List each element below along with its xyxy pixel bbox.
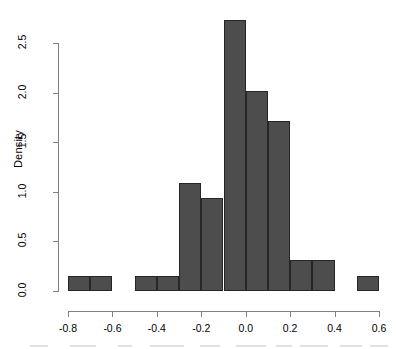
x-tick-label: -0.6 bbox=[89, 322, 135, 334]
histogram-bar bbox=[157, 276, 179, 291]
x-axis-line bbox=[68, 311, 379, 312]
histogram-bar bbox=[268, 121, 290, 291]
histogram-bar bbox=[246, 91, 268, 291]
fringe-mark bbox=[200, 345, 220, 347]
x-tick-label: -0.2 bbox=[178, 322, 224, 334]
histogram-bar bbox=[312, 260, 334, 291]
x-tick-mark bbox=[112, 311, 113, 317]
histogram-bar bbox=[224, 20, 246, 291]
x-tick-label: 0.0 bbox=[223, 322, 269, 334]
histogram-bar bbox=[201, 198, 223, 291]
x-tick-label: -0.8 bbox=[45, 322, 91, 334]
x-tick-label: -0.4 bbox=[134, 322, 180, 334]
x-tick-mark bbox=[201, 311, 202, 317]
fringe-mark bbox=[276, 345, 292, 347]
fringe-mark bbox=[70, 345, 96, 347]
fringe-mark bbox=[340, 345, 362, 347]
histogram-bar bbox=[357, 276, 379, 291]
x-tick-label: 0.6 bbox=[356, 322, 396, 334]
fringe-mark bbox=[30, 345, 48, 347]
histogram-bars bbox=[0, 0, 396, 349]
x-tick-mark bbox=[157, 311, 158, 317]
histogram-bar bbox=[68, 276, 90, 291]
fringe-mark bbox=[118, 345, 132, 347]
histogram-plot: Density 0.00.51.01.52.02.5 -0.8-0.6-0.4-… bbox=[0, 0, 396, 349]
x-tick-mark bbox=[335, 311, 336, 317]
fringe-mark bbox=[370, 345, 388, 347]
histogram-bar bbox=[290, 260, 312, 291]
fringe-mark bbox=[150, 345, 184, 347]
histogram-bar bbox=[90, 276, 112, 291]
x-tick-mark bbox=[246, 311, 247, 317]
x-tick-mark bbox=[290, 311, 291, 317]
x-tick-label: 0.2 bbox=[267, 322, 313, 334]
x-tick-mark bbox=[379, 311, 380, 317]
cropped-caption-fringe bbox=[0, 344, 396, 349]
fringe-mark bbox=[236, 345, 266, 347]
histogram-bar bbox=[135, 276, 157, 291]
x-tick-label: 0.4 bbox=[312, 322, 358, 334]
histogram-bar bbox=[179, 183, 201, 291]
x-tick-mark bbox=[68, 311, 69, 317]
fringe-mark bbox=[300, 345, 328, 347]
